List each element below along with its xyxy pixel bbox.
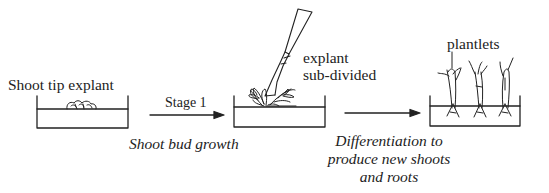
culture-vessel-1 [37,96,128,128]
explant-clump-icon [67,101,96,109]
label-plantlets: plantlets [447,36,500,52]
tissue-culture-diagram: Shoot tip explant Stage 1 Shoot bud grow… [0,0,549,193]
label-differentiation-line3: and roots [322,169,456,185]
diagram-drawing [0,0,549,193]
arrow-stage-1 [150,112,224,119]
label-shoot-tip-explant: Shoot tip explant [8,77,114,93]
plantlet-2-icon [469,61,487,117]
arrow-stage-2 [345,110,420,117]
label-sub-divided: sub-divided [303,67,376,83]
plantlet-1-icon [438,52,461,117]
label-explant: explant [303,50,349,66]
label-differentiation-line1: Differentiation to [322,133,456,149]
plantlet-3-icon [499,58,513,116]
label-stage-1: Stage 1 [165,96,207,110]
shoot-fragments-icon [249,88,296,106]
label-differentiation-line2: produce new shoots [322,151,456,167]
culture-vessel-3 [430,96,520,126]
label-shoot-bud-growth: Shoot bud growth [129,136,239,152]
